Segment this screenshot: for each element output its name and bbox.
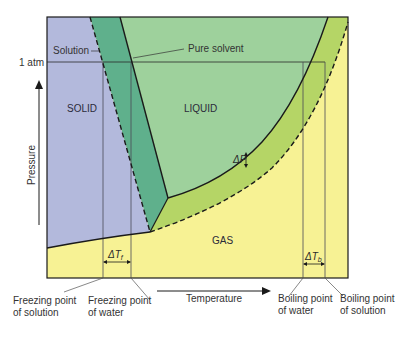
svg-text:ΔP: ΔP — [232, 154, 247, 165]
freezing-solution-leader — [64, 278, 103, 292]
freezing-water-annotation: Freezing point of water — [88, 295, 154, 318]
arrow-right-icon — [262, 287, 271, 295]
phase-diagram: SOLID LIQUID GAS Solution Pure solvent 1… — [0, 0, 403, 338]
svg-text:Pressure: Pressure — [26, 145, 37, 185]
liquid-label: LIQUID — [184, 103, 217, 114]
pressure-axis: Pressure — [26, 80, 43, 225]
solution-label: Solution — [53, 45, 89, 56]
pure-solvent-label: Pure solvent — [188, 43, 244, 54]
arrow-up-icon — [35, 80, 43, 89]
freezing-solution-annotation: Freezing point of solution — [13, 295, 79, 318]
gas-label: GAS — [212, 235, 233, 246]
boiling-water-annotation: Boiling point of water — [278, 293, 335, 316]
svg-text:Temperature: Temperature — [186, 293, 243, 304]
temperature-axis: Temperature — [157, 287, 271, 304]
boiling-solution-annotation: Boiling point of solution — [340, 293, 397, 316]
solid-label: SOLID — [67, 103, 97, 114]
one-atm-label: 1 atm — [19, 57, 44, 68]
